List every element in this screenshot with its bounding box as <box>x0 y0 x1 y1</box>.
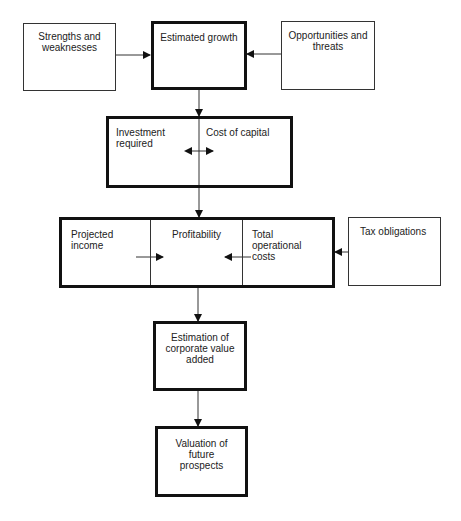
node-tax-obligations: Tax obligations <box>348 217 441 286</box>
node-label: Projected income <box>62 229 150 251</box>
node-projected-income: Projected income <box>62 220 151 285</box>
node-strengths-weaknesses: Strengths and weaknesses <box>23 23 116 91</box>
node-label: Valuation of future prospects <box>158 438 245 471</box>
node-corporate-value-added: Estimation of corporate value added <box>153 321 247 391</box>
node-valuation-future-prospects: Valuation of future prospects <box>155 426 248 497</box>
node-label: Profitability <box>151 229 242 240</box>
node-profitability-group: Projected income Profitability Total ope… <box>59 217 335 288</box>
node-total-operational-costs: Total operational costs <box>243 220 332 285</box>
node-label: Opportunities and threats <box>282 30 374 52</box>
node-label: Tax obligations <box>349 226 440 237</box>
node-investment-cost-group: Investment required Cost of capital <box>106 116 293 188</box>
node-estimated-growth: Estimated growth <box>151 21 247 90</box>
node-profitability: Profitability <box>151 220 243 285</box>
node-opportunities-threats: Opportunities and threats <box>281 21 375 90</box>
node-label: Estimation of corporate value added <box>156 332 244 365</box>
node-cost-of-capital: Cost of capital <box>206 127 290 138</box>
node-label: Total operational costs <box>243 229 332 262</box>
node-label: Estimated growth <box>154 32 244 43</box>
node-investment-required: Investment required <box>109 127 200 149</box>
node-label: Strengths and weaknesses <box>24 31 115 53</box>
